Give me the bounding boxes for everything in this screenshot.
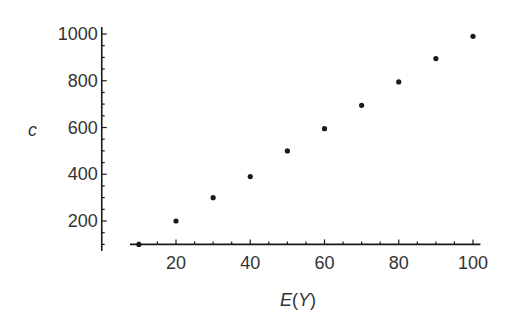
y-tick-label: 400 xyxy=(18,165,98,183)
y-tick-label: 800 xyxy=(18,72,98,90)
x-tick-label: 60 xyxy=(295,254,355,272)
x-axis-label-e: E xyxy=(280,290,292,310)
data-point xyxy=(396,79,401,84)
data-point xyxy=(248,174,253,179)
x-axis-label-y: Y xyxy=(298,290,310,310)
x-tick-label: 40 xyxy=(220,254,280,272)
axes xyxy=(102,27,481,251)
data-point xyxy=(322,126,327,131)
data-point xyxy=(173,218,178,223)
data-point xyxy=(359,103,364,108)
x-tick-label: 20 xyxy=(146,254,206,272)
data-points xyxy=(136,34,475,247)
x-axis-label-close-paren: ) xyxy=(310,290,316,310)
x-tick-label: 80 xyxy=(369,254,429,272)
data-point xyxy=(211,195,216,200)
data-point xyxy=(433,56,438,61)
y-tick-label: 1000 xyxy=(18,25,98,43)
y-axis-label: c xyxy=(28,121,37,139)
x-tick-label: 100 xyxy=(443,254,503,272)
data-point xyxy=(285,148,290,153)
y-tick-label: 200 xyxy=(18,212,98,230)
data-point xyxy=(470,34,475,39)
x-axis-label: E(Y) xyxy=(258,291,338,309)
data-point xyxy=(136,242,141,247)
